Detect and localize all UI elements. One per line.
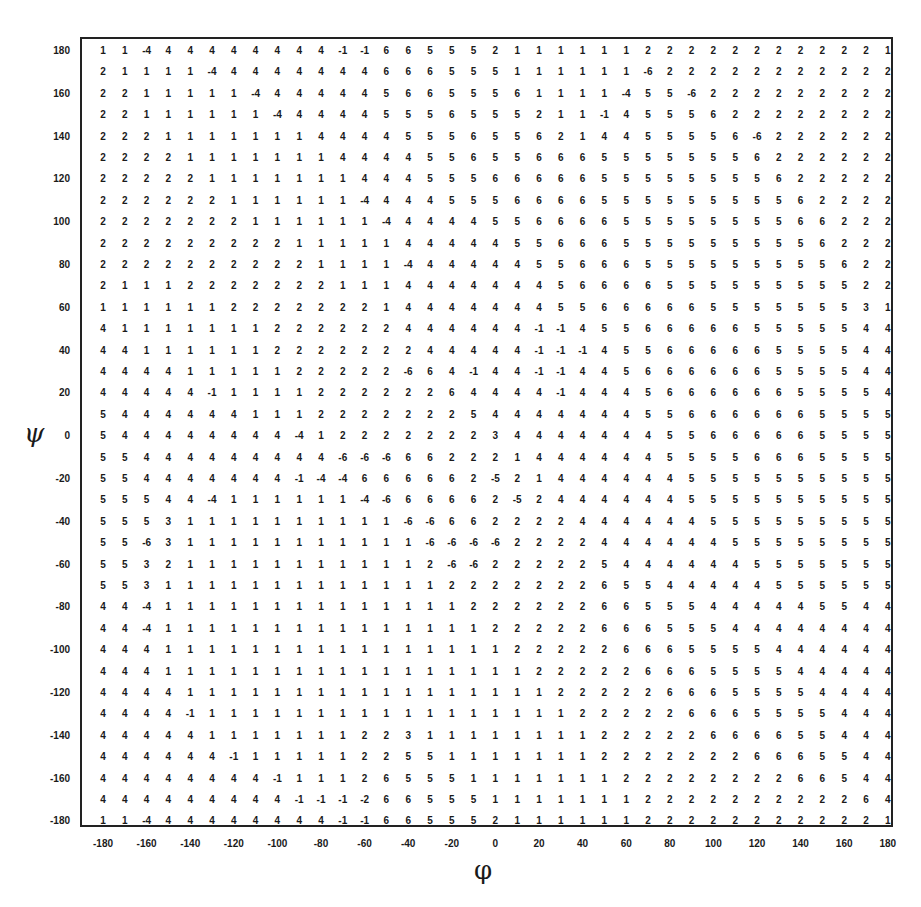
- grid-cell: 2: [528, 559, 550, 571]
- grid-cell: 1: [114, 280, 136, 292]
- grid-cell: 4: [877, 687, 899, 699]
- grid-cell: 6: [637, 666, 659, 678]
- grid-cell: 2: [811, 131, 833, 143]
- grid-cell: 2: [615, 773, 637, 785]
- grid-cell: 6: [681, 708, 703, 720]
- grid-cell: 6: [681, 302, 703, 314]
- grid-cell: 6: [659, 302, 681, 314]
- grid-cell: -4: [397, 259, 419, 271]
- grid-cell: 6: [681, 366, 703, 378]
- grid-cell: 5: [659, 173, 681, 185]
- grid-cell: 6: [746, 452, 768, 464]
- grid-cell: 4: [484, 366, 506, 378]
- grid-cell: 1: [375, 302, 397, 314]
- grid-cell: 4: [354, 109, 376, 121]
- grid-cell: 1: [332, 730, 354, 742]
- grid-cell: 2: [659, 794, 681, 806]
- grid-cell: 1: [288, 773, 310, 785]
- grid-cell: 4: [136, 708, 158, 720]
- grid-cell: 1: [179, 559, 201, 571]
- grid-cell: 6: [659, 323, 681, 335]
- grid-cell: 4: [419, 280, 441, 292]
- grid-cell: 5: [724, 238, 746, 250]
- grid-cell: 1: [484, 666, 506, 678]
- grid-cell: 5: [506, 216, 528, 228]
- grid-cell: 2: [179, 238, 201, 250]
- grid-cell: 4: [114, 751, 136, 763]
- grid-cell: 5: [746, 666, 768, 678]
- grid-cell: 4: [288, 452, 310, 464]
- grid-cell: 1: [332, 173, 354, 185]
- grid-cell: 5: [702, 152, 724, 164]
- grid-cell: 1: [179, 345, 201, 357]
- grid-cell: 1: [615, 794, 637, 806]
- grid-cell: 1: [332, 601, 354, 613]
- grid-cell: 6: [419, 88, 441, 100]
- grid-cell: 6: [724, 430, 746, 442]
- grid-cell: 2: [659, 708, 681, 720]
- grid-cell: -1: [572, 345, 594, 357]
- grid-cell: 4: [572, 387, 594, 399]
- grid-cell: 2: [332, 366, 354, 378]
- grid-cell: 2: [833, 88, 855, 100]
- grid-cell: 4: [397, 152, 419, 164]
- grid-cell: 5: [375, 109, 397, 121]
- x-tick-label: -140: [170, 838, 210, 849]
- grid-cell: 5: [637, 387, 659, 399]
- grid-cell: 6: [768, 409, 790, 421]
- grid-cell: 6: [441, 494, 463, 506]
- grid-cell: 5: [811, 751, 833, 763]
- grid-cell: 5: [92, 537, 114, 549]
- grid-cell: 2: [833, 66, 855, 78]
- grid-cell: 1: [877, 302, 899, 314]
- grid-cell: 5: [702, 494, 724, 506]
- grid-cell: 4: [114, 430, 136, 442]
- grid-cell: 2: [92, 259, 114, 271]
- grid-cell: 5: [681, 280, 703, 292]
- grid-cell: 6: [702, 430, 724, 442]
- grid-cell: 2: [790, 131, 812, 143]
- y-tick-label: 80: [30, 259, 70, 271]
- grid-cell: 2: [397, 345, 419, 357]
- grid-cell: 4: [419, 302, 441, 314]
- grid-cell: 5: [833, 751, 855, 763]
- grid-cell: 6: [702, 708, 724, 720]
- grid-cell: 6: [572, 152, 594, 164]
- grid-cell: 4: [528, 302, 550, 314]
- grid-cell: 4: [179, 409, 201, 421]
- grid-cell: 2: [572, 580, 594, 592]
- x-tick-label: -60: [345, 838, 385, 849]
- grid-cell: 2: [659, 66, 681, 78]
- grid-cell: 4: [550, 430, 572, 442]
- grid-cell: 2: [245, 302, 267, 314]
- grid-cell: 1: [223, 730, 245, 742]
- grid-cell: -1: [550, 345, 572, 357]
- grid-cell: 4: [528, 430, 550, 442]
- grid-cell: 1: [223, 131, 245, 143]
- grid-cell: 6: [681, 323, 703, 335]
- grid-cell: 4: [572, 516, 594, 528]
- grid-cell: 5: [659, 430, 681, 442]
- grid-cell: 4: [354, 152, 376, 164]
- grid-cell: 5: [702, 623, 724, 635]
- grid-cell: 1: [288, 601, 310, 613]
- grid-cell: 4: [92, 773, 114, 785]
- grid-cell: 2: [572, 537, 594, 549]
- grid-cell: 1: [223, 109, 245, 121]
- grid-cell: 4: [136, 387, 158, 399]
- grid-cell: 1: [157, 109, 179, 121]
- grid-cell: 1: [245, 366, 267, 378]
- grid-cell: 5: [681, 601, 703, 613]
- grid-cell: 4: [114, 345, 136, 357]
- y-tick-label: -100: [30, 644, 70, 656]
- grid-cell: 1: [463, 708, 485, 720]
- grid-cell: 5: [724, 687, 746, 699]
- grid-cell: 6: [637, 302, 659, 314]
- grid-cell: 2: [506, 473, 528, 485]
- grid-cell: 1: [245, 131, 267, 143]
- grid-cell: 2: [92, 152, 114, 164]
- grid-cell: 4: [114, 794, 136, 806]
- grid-cell: 5: [855, 559, 877, 571]
- grid-cell: 4: [615, 387, 637, 399]
- grid-cell: 1: [419, 730, 441, 742]
